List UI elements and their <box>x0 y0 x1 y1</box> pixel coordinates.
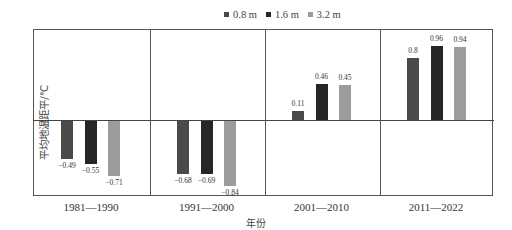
legend-item-3-2m: 3.2 m <box>308 9 341 20</box>
legend-item-0-8m: 0.8 m <box>224 9 257 20</box>
x-axis-label: 年份 <box>0 215 512 230</box>
bar-3-2m <box>108 121 120 176</box>
legend-item-1-6m: 1.6 m <box>266 9 299 20</box>
panel-2011—2022: 0.80.960.94 <box>380 30 494 195</box>
panel-1981—1990: −0.49−0.55−0.71 <box>34 30 150 195</box>
bar-0-8m <box>61 121 73 159</box>
bar-value-label: −0.84 <box>215 188 245 197</box>
legend-swatch-icon <box>308 12 313 17</box>
bar-value-label: −0.69 <box>192 176 222 185</box>
bar-value-label: 0.8 <box>398 46 428 55</box>
bar-0-8m <box>407 58 419 120</box>
bar-value-label: 0.45 <box>330 73 360 82</box>
category-label: 1991—2000 <box>149 201 265 213</box>
bar-1-6m <box>201 121 213 174</box>
bar-1-6m <box>431 46 443 120</box>
bar-3-2m <box>339 85 351 120</box>
bar-0-8m <box>292 111 304 120</box>
bar-3-2m <box>454 47 466 120</box>
legend-label: 3.2 m <box>317 9 341 20</box>
legend-label: 1.6 m <box>275 9 299 20</box>
zero-baseline <box>266 120 380 121</box>
bar-value-label: 0.11 <box>283 99 313 108</box>
plot-area: −0.49−0.55−0.71−0.68−0.69−0.840.110.460.… <box>33 29 493 196</box>
category-label: 1981—1990 <box>33 201 149 213</box>
bar-value-label: −0.71 <box>99 178 129 187</box>
legend-label: 0.8 m <box>233 9 257 20</box>
bar-0-8m <box>177 121 189 174</box>
category-label: 2011—2022 <box>378 201 494 213</box>
bar-value-label: −0.55 <box>76 166 106 175</box>
bar-3-2m <box>224 121 236 186</box>
chart-legend: 0.8 m 1.6 m 3.2 m <box>224 7 350 21</box>
bar-1-6m <box>85 121 97 164</box>
panel-1991—2000: −0.68−0.69−0.84 <box>150 30 265 195</box>
bar-1-6m <box>316 84 328 120</box>
category-label: 2001—2010 <box>264 201 380 213</box>
panel-2001—2010: 0.110.460.45 <box>265 30 380 195</box>
legend-swatch-icon <box>224 12 229 17</box>
legend-swatch-icon <box>266 12 271 17</box>
zero-baseline <box>381 120 494 121</box>
bar-value-label: 0.94 <box>445 35 475 44</box>
